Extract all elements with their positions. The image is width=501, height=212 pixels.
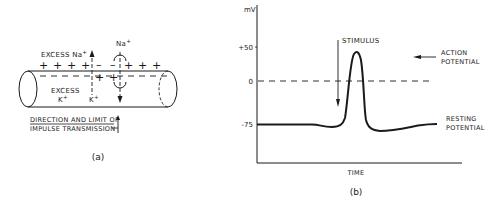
tick-label-plus50: +50 bbox=[238, 44, 253, 52]
plus-charge: + bbox=[81, 59, 90, 72]
plus-charge: + bbox=[53, 59, 62, 72]
action-potential-label-line1: ACTION bbox=[441, 49, 468, 57]
panel-a-caption: (a) bbox=[92, 152, 105, 162]
k-ion-label: K+ bbox=[89, 94, 99, 104]
outer-charges: + + + + – – + + + bbox=[39, 58, 161, 72]
action-potential-curve bbox=[257, 52, 437, 131]
panel-b-action-potential-chart: mV +50 0 -75 STIMULUS ACTION POTENTIAL R… bbox=[238, 5, 484, 197]
direction-label-line2: IMPULSE TRANSMISSION bbox=[30, 125, 115, 133]
resting-potential-label-line2: POTENTIAL bbox=[446, 124, 485, 132]
plus-charge: + bbox=[124, 59, 133, 72]
plus-charge: + bbox=[67, 59, 76, 72]
plus-charge: + bbox=[39, 59, 48, 72]
minus-charge: – bbox=[110, 58, 116, 71]
stimulus-label: STIMULUS bbox=[342, 37, 380, 45]
panel-a-nerve-diagram: + + + + – – + + + + + EXCESS Na+ EXCESS … bbox=[19, 38, 177, 162]
tick-label-minus75: -75 bbox=[242, 121, 253, 129]
figure: + + + + – – + + + + + EXCESS Na+ EXCESS … bbox=[0, 0, 501, 212]
panel-b-caption: (b) bbox=[350, 187, 363, 197]
plus-charge: + bbox=[138, 59, 147, 72]
y-unit-label: mV bbox=[244, 6, 256, 14]
na-influx-arrowhead-icon bbox=[118, 96, 123, 103]
x-axis-label: TIME bbox=[347, 169, 365, 177]
stimulus-arrowhead-icon bbox=[336, 99, 340, 107]
excess-k-label-line2: K+ bbox=[58, 94, 68, 104]
resting-potential-label-line1: RESTING bbox=[446, 115, 477, 123]
cylinder-right-end bbox=[168, 71, 177, 107]
cylinder-left-end bbox=[19, 71, 37, 107]
minus-charge: – bbox=[96, 58, 102, 71]
action-potential-label-line2: POTENTIAL bbox=[441, 58, 480, 66]
na-ion-label: Na+ bbox=[116, 38, 131, 48]
plus-charge: + bbox=[152, 59, 161, 72]
direction-label-line1: DIRECTION AND LIMIT OF bbox=[30, 116, 119, 124]
k-efflux-arrowhead-icon bbox=[90, 50, 95, 57]
tick-label-zero: 0 bbox=[249, 78, 253, 86]
inner-charges: + + bbox=[95, 71, 118, 84]
plus-charge: + bbox=[95, 71, 104, 84]
action-potential-arrowhead-icon bbox=[413, 55, 421, 59]
excess-na-label: EXCESS Na+ bbox=[41, 49, 87, 59]
